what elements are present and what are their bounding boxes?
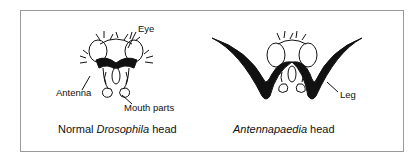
label-leg: Leg [340, 89, 356, 100]
label-mouth-parts: Mouth parts [124, 102, 174, 113]
caption-normal-head: Normal Drosophila head [58, 123, 177, 135]
caption-antennapaedia-suffix: head [307, 123, 335, 135]
caption-normal-prefix: Normal [58, 123, 97, 135]
label-antenna: Antenna [56, 87, 91, 98]
caption-normal-species: Drosophila [97, 123, 150, 135]
caption-antennapaedia-head: Antennapaedia head [233, 123, 335, 135]
label-eye: Eye [138, 23, 154, 34]
caption-normal-suffix: head [149, 123, 177, 135]
fly-heads-illustration [0, 0, 416, 160]
caption-antennapaedia-species: Antennapaedia [233, 123, 307, 135]
